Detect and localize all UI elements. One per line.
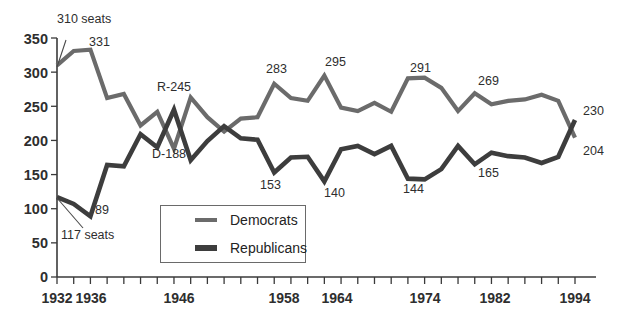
legend-swatch-democrats-icon: [195, 218, 217, 223]
annotation-230: 230: [583, 104, 604, 118]
annotation-204: 204: [583, 144, 604, 158]
x-tick-label-1982: 1982: [467, 290, 523, 306]
legend-item-republicans: Republicans: [161, 234, 305, 262]
annotation-291: 291: [410, 61, 431, 75]
y-tick-label-0: 0: [8, 269, 48, 285]
x-axis-ticks: [57, 277, 575, 284]
y-tick-label-200: 200: [8, 133, 48, 149]
legend-swatch-republicans-icon: [195, 245, 217, 251]
chart-legend: Democrats Republicans: [160, 205, 306, 263]
series-line-democrats: [57, 50, 575, 149]
legend-item-democrats: Democrats: [161, 206, 305, 234]
y-tick-label-300: 300: [8, 65, 48, 81]
annotation-117-seats: 117 seats: [61, 228, 114, 242]
y-tick-label-100: 100: [8, 201, 48, 217]
annotation-R-245: R-245: [157, 80, 191, 94]
y-tick-label-50: 50: [8, 235, 48, 251]
x-tick-label-1958: 1958: [256, 290, 312, 306]
annotation-140: 140: [324, 186, 345, 200]
legend-label-republicans: Republicans: [230, 240, 307, 256]
annotation-310-seats: 310 seats: [57, 12, 111, 26]
y-tick-label-250: 250: [8, 99, 48, 115]
annotation-144: 144: [403, 182, 424, 196]
annotation-153: 153: [260, 178, 281, 192]
legend-label-democrats: Democrats: [230, 212, 298, 228]
x-tick-label-1994: 1994: [547, 290, 603, 306]
y-axis-ticks: [51, 38, 57, 277]
annotation-331: 331: [89, 35, 110, 49]
series-line-republicans: [57, 110, 575, 217]
annotation-165: 165: [478, 166, 499, 180]
x-tick-label-1964: 1964: [309, 290, 365, 306]
y-tick-label-350: 350: [8, 31, 48, 47]
annotation-D-188: D-188: [152, 147, 186, 161]
annotation-269: 269: [478, 74, 499, 88]
chart-container: 350 300 250 200 150 100 50 0 1932 1936 1…: [0, 0, 630, 320]
x-tick-label-1936: 1936: [63, 290, 119, 306]
annotation-283: 283: [266, 62, 287, 76]
annotation-89: 89: [95, 203, 109, 217]
annotation-295: 295: [325, 55, 346, 69]
x-tick-label-1946: 1946: [151, 290, 207, 306]
x-tick-label-1974: 1974: [397, 290, 453, 306]
y-tick-label-150: 150: [8, 167, 48, 183]
